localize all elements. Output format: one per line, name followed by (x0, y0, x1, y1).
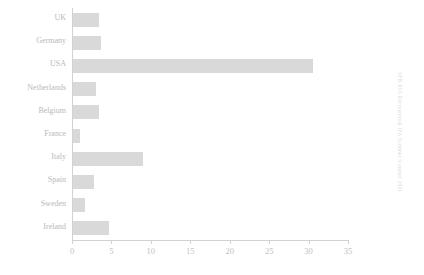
x-axis-tick-label: 10 (147, 246, 156, 257)
bar-germany (72, 36, 101, 50)
bar-italy (72, 152, 143, 166)
x-axis-tick-label: 35 (344, 246, 353, 257)
bar-row: Belgium (72, 101, 348, 124)
bar-sweden (72, 198, 85, 212)
category-label-germany: Germany (36, 34, 66, 48)
x-axis-tick (348, 240, 349, 244)
x-axis-tick (269, 240, 270, 244)
bar-row: Netherlands (72, 78, 348, 101)
x-axis-line (72, 240, 349, 241)
category-label-usa: USA (50, 57, 66, 71)
bar-france (72, 129, 80, 143)
x-axis-tick (230, 240, 231, 244)
y-axis-line (72, 8, 73, 240)
x-axis-tick (151, 240, 152, 244)
bar-usa (72, 59, 313, 73)
x-axis-tick-label: 5 (109, 246, 113, 257)
x-axis-tick (111, 240, 112, 244)
x-axis-tick (309, 240, 310, 244)
category-label-france: France (44, 127, 66, 141)
x-axis-tick (72, 240, 73, 244)
x-axis-tick (190, 240, 191, 244)
category-label-italy: Italy (51, 150, 66, 164)
bar-row: Sweden (72, 194, 348, 217)
category-label-spain: Spain (48, 173, 66, 187)
bar-row: Spain (72, 170, 348, 193)
bar-row: France (72, 124, 348, 147)
bar-uk (72, 13, 99, 27)
x-axis-tick-label: 25 (265, 246, 274, 257)
bar-row: Italy (72, 147, 348, 170)
bar-row: UK (72, 8, 348, 31)
bar-chart-figure: UKGermanyUSANetherlandsBelgiumFranceItal… (0, 0, 424, 275)
bar-belgium (72, 105, 99, 119)
category-label-netherlands: Netherlands (27, 81, 66, 95)
x-axis-tick-label: 0 (70, 246, 74, 257)
bar-row: Ireland (72, 217, 348, 240)
plot-area: UKGermanyUSANetherlandsBelgiumFranceItal… (72, 8, 348, 240)
bar-row: Germany (72, 31, 348, 54)
bar-ireland (72, 221, 109, 235)
x-axis-tick-label: 20 (225, 246, 234, 257)
category-label-uk: UK (54, 11, 66, 25)
bar-spain (72, 175, 94, 189)
category-label-ireland: Ireland (43, 220, 66, 234)
bar-row: USA (72, 54, 348, 77)
x-axis-tick-label: 15 (186, 246, 195, 257)
bar-netherlands (72, 82, 96, 96)
category-label-belgium: Belgium (38, 104, 66, 118)
category-label-sweden: Sweden (41, 197, 66, 211)
side-caption: SFB RUI Recreational IFA Summer Summer 2… (396, 72, 404, 212)
x-axis-tick-label: 30 (304, 246, 313, 257)
